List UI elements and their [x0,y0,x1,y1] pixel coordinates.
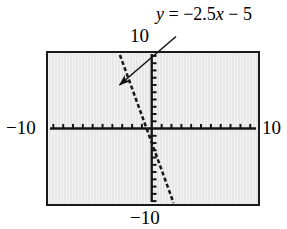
equation-label-var-y: y [156,4,164,24]
equation-label-coefficient: −2.5 [183,4,216,24]
x-axis-min-label: −10 [6,118,36,137]
x-axis-max-label: 10 [262,118,281,137]
y-axis-min-label: −10 [130,208,160,227]
equation-label-equals: = [164,4,183,24]
y-axis-max-label: 10 [130,26,149,45]
equation-label: y = −2.5x − 5 [156,5,252,23]
graph-figure: 10 −10 −10 10 y = −2.5x − 5 [0,0,287,229]
equation-label-constant: − 5 [224,4,252,24]
equation-label-var-x: x [216,4,224,24]
